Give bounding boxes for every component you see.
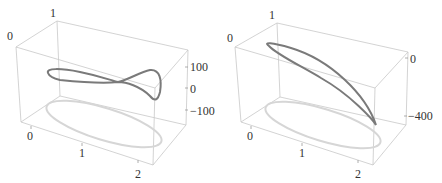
x-tick-2: 2 (355, 167, 361, 181)
plot-3d-left-canvas: 0 1 0 1 2 100 0 −100 (0, 0, 221, 183)
bounding-box (16, 21, 188, 165)
plot-3d-right-canvas: 0 1 0 1 2 0 −400 (221, 0, 442, 183)
y-tick-1: 1 (50, 6, 56, 20)
z-tick-0: 0 (410, 52, 416, 66)
x-tick-1: 1 (299, 146, 305, 160)
bounding-box (235, 23, 408, 165)
y-tick-0: 0 (227, 31, 233, 45)
floor-projection-ellipse (261, 92, 385, 158)
y-tick-1: 1 (269, 8, 275, 22)
x-tick-1: 1 (79, 146, 85, 160)
x-tick-0: 0 (27, 129, 33, 143)
z-tick-neg400: −400 (408, 109, 433, 123)
x-tick-2: 2 (135, 167, 141, 181)
floor-projection-ellipse (42, 91, 166, 157)
z-tick-0: 0 (190, 82, 196, 96)
curve-elongated-loop (267, 43, 376, 125)
plot-3d-left: 0 1 0 1 2 100 0 −100 (0, 0, 221, 183)
y-tick-0: 0 (7, 29, 13, 43)
plot-3d-right: 0 1 0 1 2 0 −400 (221, 0, 442, 183)
x-tick-0: 0 (247, 129, 253, 143)
z-tick-100: 100 (190, 60, 208, 74)
z-tick-neg100: −100 (190, 104, 215, 118)
